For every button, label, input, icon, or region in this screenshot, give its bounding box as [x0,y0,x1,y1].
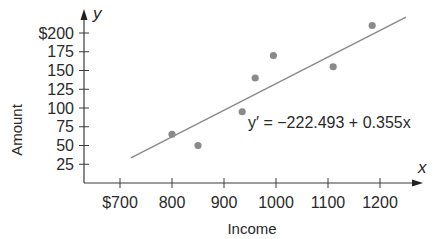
x-axis-title: Income [227,220,276,237]
x-tick-label: 1000 [258,194,294,211]
y-tick-label: 75 [56,118,74,135]
data-point [239,108,246,115]
x-axis-arrow-icon [412,180,423,187]
x-tick-label: 800 [159,194,186,211]
y-tick-label: $200 [38,25,74,42]
axes [79,9,423,188]
y-tick-label: 25 [56,156,74,173]
x-tick-label: $700 [102,194,138,211]
x-tick-label: 900 [211,194,238,211]
x-axis-symbol: x [417,158,427,177]
data-point [252,74,259,81]
data-point [330,63,337,70]
y-tick-label: 50 [56,137,74,154]
y-axis-arrow-icon [81,9,88,20]
y-axis-symbol: y [92,4,103,23]
x-tick-label: 1100 [311,194,346,211]
y-tick-label: 100 [47,100,74,117]
x-tick-label: 1200 [362,194,398,211]
data-point [270,52,277,59]
chart-svg: 255075100125150175$200$70080090010001100… [0,0,436,239]
data-point [168,131,175,138]
y-axis-title: Amount [8,103,25,156]
data-point [194,142,201,149]
y-tick-label: 175 [47,43,74,60]
scatter-chart: 255075100125150175$200$70080090010001100… [0,0,436,239]
y-tick-label: 150 [47,62,74,79]
regression-equation: y′ = −222.493 + 0.355x [248,114,411,131]
y-tick-label: 125 [47,81,74,98]
data-point [369,22,376,29]
